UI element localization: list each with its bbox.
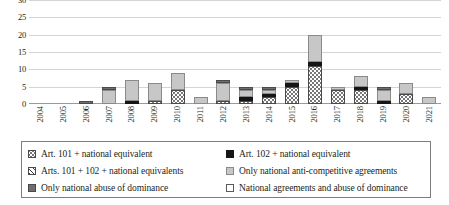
bar-segment[interactable] (308, 66, 322, 104)
y-tick-label: 20 (18, 30, 26, 39)
bar-segment[interactable] (148, 83, 162, 100)
x-tick: 2018 (349, 104, 372, 138)
x-tick-label: 2016 (310, 106, 319, 123)
legend-label: Art. 102 + national equivalent (239, 149, 350, 159)
stacked-bar[interactable] (194, 97, 208, 104)
x-tick-label: 2011 (196, 106, 205, 122)
legend-item[interactable]: Only national abuse of dominance (28, 179, 226, 196)
x-tick: 2009 (143, 104, 166, 138)
stacked-bar[interactable] (308, 35, 322, 104)
x-tick: 2019 (372, 104, 395, 138)
bar-slot[interactable] (121, 0, 144, 104)
x-tick-label: 2015 (288, 106, 297, 123)
bar-slot[interactable] (372, 0, 395, 104)
stacked-bar[interactable] (354, 76, 368, 104)
stacked-bar[interactable] (239, 87, 253, 104)
x-tick-label: 2014 (265, 106, 274, 123)
stacked-bar[interactable] (422, 97, 436, 104)
bar-slot[interactable] (395, 0, 418, 104)
bar-segment[interactable] (125, 80, 139, 101)
chart-legend: Art. 101 + national equivalentArt. 102 +… (21, 141, 431, 198)
legend-item[interactable]: Art. 102 + national equivalent (226, 145, 424, 162)
legend-swatch-icon (226, 184, 234, 192)
x-tick: 2004 (29, 104, 52, 138)
y-axis: 051015202530 (0, 0, 28, 104)
x-tick-label: 2017 (333, 106, 342, 123)
x-tick: 2015 (281, 104, 304, 138)
x-tick-label: 2007 (105, 106, 114, 123)
bar-segment[interactable] (285, 87, 299, 104)
legend-swatch-icon (28, 184, 36, 192)
stacked-bar[interactable] (399, 83, 413, 104)
bar-segment[interactable] (102, 90, 116, 104)
bar-slot[interactable] (189, 0, 212, 104)
bar-slot[interactable] (326, 0, 349, 104)
x-tick: 2014 (258, 104, 281, 138)
legend-item[interactable]: Only national anti-competitive agreement… (226, 162, 424, 179)
stacked-bar[interactable] (377, 87, 391, 104)
stacked-bar[interactable] (331, 87, 345, 104)
bar-series-container (29, 0, 441, 104)
legend-item[interactable]: National agreements and abuse of dominan… (226, 179, 424, 196)
bar-segment[interactable] (331, 90, 345, 104)
legend-label: Art. 101 + national equivalent (41, 149, 152, 159)
x-tick-label: 2005 (59, 106, 68, 123)
bar-segment[interactable] (399, 94, 413, 104)
bar-segment[interactable] (171, 73, 185, 90)
bar-segment[interactable] (194, 97, 208, 104)
bar-slot[interactable] (235, 0, 258, 104)
x-tick: 2012 (212, 104, 235, 138)
y-tick-label: 15 (18, 48, 26, 57)
bar-segment[interactable] (171, 90, 185, 104)
bar-segment[interactable] (216, 83, 230, 100)
y-tick-label: 10 (18, 65, 26, 74)
x-tick-label: 2021 (425, 106, 434, 123)
bar-slot[interactable] (29, 0, 52, 104)
y-tick-label: 25 (18, 13, 26, 22)
bar-segment[interactable] (377, 90, 391, 100)
bar-slot[interactable] (418, 0, 441, 104)
bar-segment[interactable] (354, 90, 368, 104)
bar-segment[interactable] (422, 97, 436, 104)
bar-segment[interactable] (308, 35, 322, 63)
bar-slot[interactable] (75, 0, 98, 104)
legend-item[interactable]: Art. 101 + national equivalent (28, 145, 226, 162)
bar-slot[interactable] (304, 0, 327, 104)
bar-slot[interactable] (258, 0, 281, 104)
stacked-bar[interactable] (102, 87, 116, 104)
legend-label: National agreements and abuse of dominan… (239, 183, 408, 193)
x-tick: 2017 (326, 104, 349, 138)
y-tick-label: 5 (22, 82, 26, 91)
y-tick-label: 0 (22, 100, 26, 109)
bar-segment[interactable] (239, 90, 253, 97)
bar-slot[interactable] (281, 0, 304, 104)
stacked-bar[interactable] (125, 80, 139, 104)
y-tick-label: 30 (18, 0, 26, 4)
x-tick: 2005 (52, 104, 75, 138)
legend-swatch-icon (28, 150, 36, 158)
x-tick-label: 2020 (402, 106, 411, 123)
legend-label: Arts. 101 + 102 + national equivalents (41, 166, 183, 176)
legend-item[interactable]: Arts. 101 + 102 + national equivalents (28, 162, 226, 179)
bar-segment[interactable] (354, 76, 368, 86)
stacked-bar[interactable] (171, 73, 185, 104)
x-tick-label: 2019 (379, 106, 388, 123)
stacked-bar[interactable] (262, 87, 276, 104)
bar-slot[interactable] (143, 0, 166, 104)
chart-page: 051015202530 200420052006200720082009201… (0, 0, 449, 205)
stacked-bar[interactable] (148, 83, 162, 104)
x-tick-label: 2006 (82, 106, 91, 123)
x-tick-label: 2010 (173, 106, 182, 123)
stacked-bar[interactable] (216, 80, 230, 104)
bar-slot[interactable] (212, 0, 235, 104)
bar-segment[interactable] (399, 83, 413, 93)
bar-slot[interactable] (349, 0, 372, 104)
x-tick-label: 2018 (356, 106, 365, 123)
bar-slot[interactable] (52, 0, 75, 104)
bar-segment[interactable] (262, 97, 276, 104)
stacked-bar[interactable] (285, 80, 299, 104)
bar-slot[interactable] (166, 0, 189, 104)
legend-swatch-icon (226, 167, 234, 175)
x-tick: 2016 (304, 104, 327, 138)
bar-slot[interactable] (98, 0, 121, 104)
